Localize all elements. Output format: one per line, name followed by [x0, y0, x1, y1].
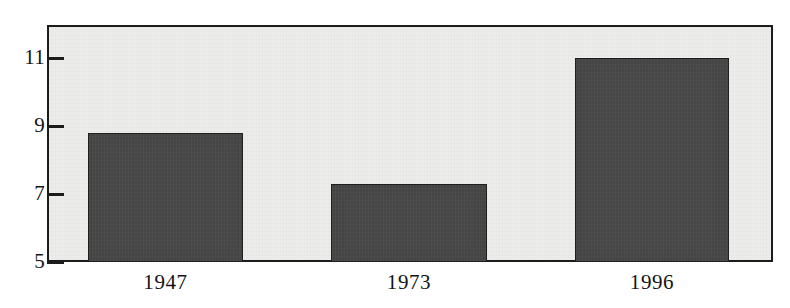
- bar-chart-figure: 11975 194719731996: [0, 0, 790, 308]
- y-axis-tick-mark: [47, 261, 64, 264]
- x-axis-tick-label: 1947: [81, 272, 251, 293]
- bar: [575, 58, 729, 262]
- y-axis-tick-label: 5: [5, 251, 45, 272]
- y-axis-tick-mark: [47, 193, 64, 196]
- y-axis-tick-label: 9: [5, 115, 45, 136]
- y-axis-tick-mark: [47, 125, 64, 128]
- bar: [331, 184, 487, 262]
- y-axis-tick-label: 11: [5, 47, 45, 68]
- y-axis-tick-label: 7: [5, 183, 45, 204]
- x-axis-tick-label: 1996: [567, 272, 737, 293]
- y-axis-tick-mark: [47, 57, 64, 60]
- x-axis-tick-label: 1973: [324, 272, 494, 293]
- bar: [88, 133, 243, 262]
